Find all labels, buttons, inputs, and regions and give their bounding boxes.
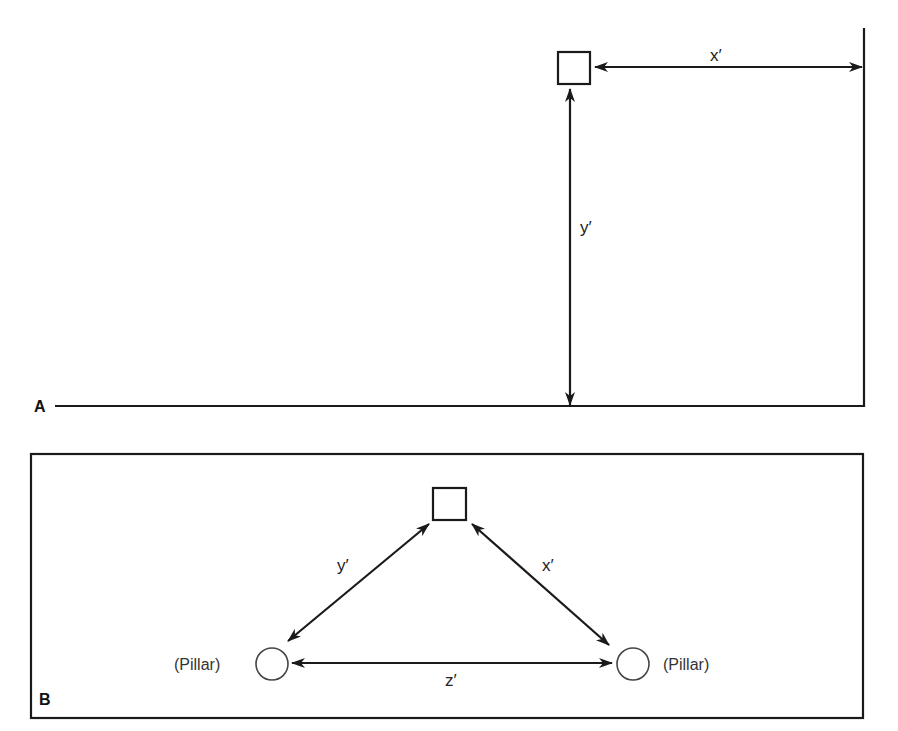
panel-b-z-label: z′ [445,671,457,690]
panel-b-left-pillar-icon [256,648,288,680]
panel-b-x-arrow [472,524,609,645]
panel-b-object-square [433,488,466,520]
panel-a: A x′ y′ [34,28,865,415]
panel-b-y-arrow [288,524,429,641]
diagram-canvas: A x′ y′ B (Pillar) (Pillar) y′ x′ z′ [0,0,898,731]
panel-b-y-label: y′ [337,556,349,575]
panel-a-y-label: y′ [580,218,592,237]
panel-b-left-pillar-label: (Pillar) [174,656,220,673]
panel-b-right-pillar-icon [617,648,649,680]
panel-b: B (Pillar) (Pillar) y′ x′ z′ [31,454,863,718]
panel-a-label: A [34,398,46,415]
panel-b-x-label: x′ [542,556,554,575]
panel-a-x-label: x′ [710,46,722,65]
panel-b-label: B [39,691,51,708]
panel-a-object-square [558,52,590,84]
panel-b-right-pillar-label: (Pillar) [663,656,709,673]
